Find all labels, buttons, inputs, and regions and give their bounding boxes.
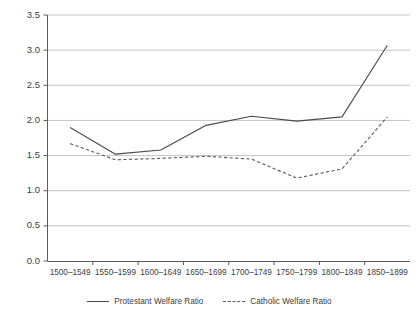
line-chart-canvas [0,0,419,314]
legend-item-protestant: Protestant Welfare Ratio [87,297,203,306]
data-series-group [70,45,387,178]
y-tick-label: 3.5 [14,9,40,20]
x-tick-label: 1550–1599 [95,268,136,277]
legend-label-protestant: Protestant Welfare Ratio [114,297,203,306]
x-tick-label: 1850–1899 [367,268,408,277]
legend-line-dashed-icon [223,301,245,303]
y-tick-label: 0.5 [14,219,40,230]
x-tick-label: 1600–1649 [140,268,181,277]
x-tick-label: 1800–1849 [322,268,363,277]
y-tick-label: 2.0 [14,114,40,125]
series-line-catholic [70,117,387,178]
y-tick-label: 1.0 [14,184,40,195]
legend-label-catholic: Catholic Welfare Ratio [250,297,331,306]
legend-item-catholic: Catholic Welfare Ratio [223,297,331,306]
x-tick-label: 1700–1749 [231,268,272,277]
legend-line-solid-icon [87,301,109,303]
chart-legend: Protestant Welfare Ratio Catholic Welfar… [0,297,419,306]
x-tick-label: 1500–1549 [50,268,91,277]
chart-figure: 0.00.51.01.52.02.53.03.5 1500–15491550–1… [0,0,419,314]
x-tick-label: 1650–1699 [186,268,227,277]
x-tick-label: 1750–1799 [276,268,317,277]
y-tick-label: 3.0 [14,44,40,55]
series-line-protestant [70,45,387,154]
y-tick-label: 2.5 [14,79,40,90]
y-tick-label: 0.0 [14,255,40,266]
y-tick-label: 1.5 [14,149,40,160]
